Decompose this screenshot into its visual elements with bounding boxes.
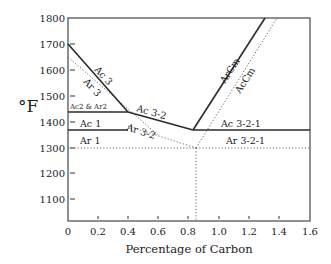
x-tick-0.4: 0.4 [120, 226, 136, 237]
y-tick-1300: 1300 [40, 143, 65, 154]
label-ar321: Ar 3-2-1 [225, 135, 265, 146]
label-ac2-ar2: Ac2 & Ar2 [69, 103, 107, 111]
y-axis-ticks [70, 44, 75, 199]
y-tick-1200: 1200 [40, 168, 65, 179]
ac3-curve [68, 44, 128, 112]
x-tick-0.8: 0.8 [180, 226, 196, 237]
label-ar1: Ar 1 [79, 135, 100, 146]
label-ar32: Ar 3-2 [124, 121, 157, 141]
y-tick-1700: 1700 [40, 39, 65, 50]
x-axis-ticks [98, 216, 279, 219]
iron-carbon-diagram: 1800 1700 1600 1500 1400 1300 1200 1100 … [0, 0, 331, 264]
x-tick-1.4: 1.4 [271, 226, 287, 237]
label-ac1: Ac 1 [79, 118, 101, 129]
x-tick-1.2: 1.2 [241, 226, 257, 237]
x-tick-0.2: 0.2 [90, 226, 106, 237]
x-axis-title: Percentage of Carbon [125, 242, 253, 256]
y-tick-1500: 1500 [40, 91, 65, 102]
plot-frame [68, 18, 310, 221]
curve-labels: Ac 3 Ar 3 Ac 3-2 Ar 3-2 Ac2 & Ar2 Ac 1 A… [69, 56, 265, 146]
x-axis-tick-labels: 0 0.2 0.4 0.6 0.8 1.0 1.2 1.4 1.6 [65, 226, 318, 237]
x-tick-1.0: 1.0 [211, 226, 227, 237]
label-ac321: Ac 3-2-1 [220, 118, 261, 129]
dotted-curves [68, 18, 310, 221]
y-tick-1400: 1400 [40, 117, 65, 128]
y-tick-1800: 1800 [40, 13, 65, 24]
x-tick-0: 0 [65, 226, 71, 237]
y-axis-tick-labels: 1800 1700 1600 1500 1400 1300 1200 1100 [40, 13, 65, 205]
x-tick-0.6: 0.6 [150, 226, 166, 237]
y-tick-1600: 1600 [40, 65, 65, 76]
y-tick-1100: 1100 [40, 194, 65, 205]
y-axis-unit-label: °F [18, 96, 39, 116]
x-tick-1.6: 1.6 [302, 226, 318, 237]
